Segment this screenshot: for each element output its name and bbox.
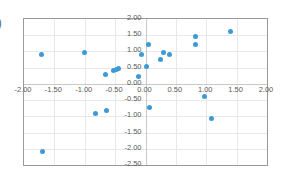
data-point[interactable] bbox=[116, 66, 121, 71]
x-axis-tick-label: 1.00 bbox=[198, 83, 213, 94]
data-point[interactable] bbox=[82, 50, 87, 55]
x-axis-tick-label: -1.00 bbox=[75, 83, 92, 94]
y-axis-tick-label: -1.50 bbox=[124, 128, 144, 136]
data-point[interactable] bbox=[40, 149, 45, 154]
y-axis-tick-label: -0.50 bbox=[124, 95, 144, 103]
x-axis-tick-label: -0.50 bbox=[106, 83, 123, 94]
y-axis-tick-label: 1.50 bbox=[127, 30, 145, 38]
data-point[interactable] bbox=[103, 72, 108, 77]
data-point[interactable] bbox=[193, 42, 198, 47]
scatter-chart-widget[interactable]: ) -2.50-2.00-1.50-1.00-0.500.000.501.001… bbox=[0, 0, 285, 179]
x-axis-tick-label: 2.00 bbox=[259, 83, 274, 94]
x-axis-tick-label: 0.00 bbox=[137, 83, 152, 94]
y-axis-tick-label: 1.00 bbox=[127, 47, 145, 55]
data-point[interactable] bbox=[104, 108, 109, 113]
y-axis-tick-label: -2.00 bbox=[124, 144, 144, 152]
data-point[interactable] bbox=[39, 52, 44, 57]
data-point[interactable] bbox=[167, 52, 172, 57]
data-point[interactable] bbox=[144, 64, 149, 69]
data-point[interactable] bbox=[161, 50, 166, 55]
data-point[interactable] bbox=[93, 111, 98, 116]
data-point[interactable] bbox=[202, 94, 207, 99]
x-axis-tick-label: 1.50 bbox=[228, 83, 243, 94]
data-point[interactable] bbox=[209, 116, 214, 121]
y-axis-tick-label: -1.00 bbox=[124, 112, 144, 120]
y-axis-tick-label: -2.50 bbox=[124, 160, 144, 168]
y-axis-tick-label: 2.00 bbox=[127, 14, 145, 22]
x-axis-tick-label: -2.00 bbox=[14, 83, 31, 94]
data-point[interactable] bbox=[158, 57, 163, 62]
x-axis-tick-label: 0.50 bbox=[168, 83, 183, 94]
clipped-edge-glyph: ) bbox=[0, 14, 2, 31]
y-axis-tick-label: 0.50 bbox=[127, 63, 145, 71]
data-point[interactable] bbox=[228, 29, 233, 34]
x-axis-tick-label: -1.50 bbox=[45, 83, 62, 94]
data-point[interactable] bbox=[146, 42, 151, 47]
data-point[interactable] bbox=[147, 105, 152, 110]
data-point[interactable] bbox=[193, 34, 198, 39]
